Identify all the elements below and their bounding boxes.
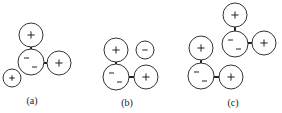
label-c: (c) bbox=[227, 97, 238, 108]
charge-cluster-diagram: (a) (b) (c) bbox=[0, 0, 282, 113]
negative-ion-circle bbox=[188, 63, 214, 89]
negative-ion-circle bbox=[103, 64, 129, 90]
negative-ion-circle bbox=[18, 49, 44, 75]
diagram-canvas bbox=[0, 0, 282, 113]
label-b: (b) bbox=[121, 97, 133, 108]
label-a: (a) bbox=[26, 95, 37, 106]
negative-ion-circle bbox=[222, 31, 248, 57]
